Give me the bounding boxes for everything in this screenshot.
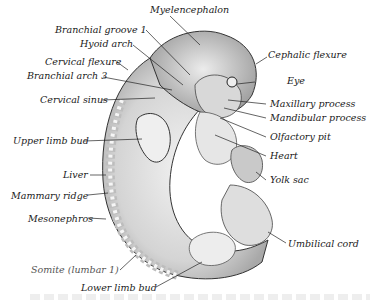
label-maxillary-process: Maxillary process (270, 98, 356, 109)
label-cephalic-flexure: Cephalic flexure (268, 49, 347, 60)
label-somite-lumbar-1: Somite (lumbar 1) (31, 264, 119, 275)
faded-caption-remnant (30, 294, 370, 300)
label-umbilical-cord: Umbilical cord (288, 238, 359, 249)
label-heart: Heart (270, 150, 298, 161)
embryo-diagram: Myelencephalon Branchial groove 1 Hyoid … (0, 0, 372, 303)
label-yolk-sac: Yolk sac (270, 174, 309, 185)
label-liver: Liver (63, 169, 88, 180)
embryo-illustration (0, 0, 372, 303)
label-branchial-groove-1: Branchial groove 1 (55, 24, 147, 35)
label-olfactory-pit: Olfactory pit (270, 131, 331, 142)
label-upper-limb-bud: Upper limb bud (13, 135, 89, 146)
label-branchial-arch-3: Branchial arch 3 (27, 70, 107, 81)
label-cervical-flexure: Cervical flexure (45, 56, 121, 67)
label-mandibular-process: Mandibular process (270, 112, 366, 123)
label-myelencephalon: Myelencephalon (150, 4, 229, 15)
label-mammary-ridge: Mammary ridge (11, 190, 88, 201)
label-cervical-sinus: Cervical sinus (40, 94, 108, 105)
label-hyoid-arch: Hyoid arch (80, 38, 133, 49)
label-lower-limb-bud: Lower limb bud (81, 282, 157, 293)
label-mesonephros: Mesonephros (28, 213, 93, 224)
label-eye: Eye (287, 75, 305, 86)
